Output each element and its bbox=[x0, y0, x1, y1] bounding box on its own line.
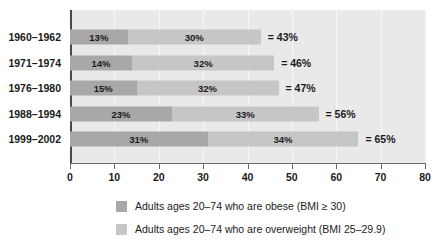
bar-segment-value-label: 15% bbox=[70, 81, 137, 96]
legend-item-overweight: Adults ages 20–74 who are overweight (BM… bbox=[116, 219, 385, 239]
stacked-bar: 15%32% bbox=[70, 81, 279, 96]
bar-segment-overweight: 32% bbox=[137, 81, 279, 96]
x-tick-mark bbox=[159, 163, 160, 169]
bar-segment-overweight: 33% bbox=[172, 106, 318, 121]
stacked-bar: 13%30% bbox=[70, 30, 261, 45]
x-tick-mark bbox=[425, 163, 426, 169]
category-label: 1999–2002 bbox=[8, 133, 61, 145]
x-tick-mark bbox=[114, 163, 115, 169]
category-label: 1988–1994 bbox=[8, 108, 61, 120]
category-label: 1960–1962 bbox=[8, 31, 61, 43]
x-tick-label: 80 bbox=[419, 171, 431, 183]
x-tick-mark bbox=[248, 163, 249, 169]
category-label: 1976–1980 bbox=[8, 82, 61, 94]
legend-label-obese: Adults ages 20–74 who are obese (BMI ≥ 3… bbox=[135, 200, 346, 212]
bar-segment-overweight: 34% bbox=[208, 132, 359, 147]
bar-segment-value-label: 32% bbox=[132, 55, 274, 70]
x-tick-mark bbox=[336, 163, 337, 169]
x-tick-mark bbox=[203, 163, 204, 169]
bar-total-label: = 47% bbox=[286, 82, 316, 94]
bar-segment-value-label: 14% bbox=[70, 55, 132, 70]
bar-segment-obese: 15% bbox=[70, 81, 137, 96]
bar-total-label: = 46% bbox=[281, 57, 311, 69]
x-tick-mark bbox=[381, 163, 382, 169]
x-tick-label: 70 bbox=[375, 171, 387, 183]
legend-swatch-obese-icon bbox=[116, 201, 127, 212]
bar-segment-overweight: 32% bbox=[132, 55, 274, 70]
bar-segment-obese: 23% bbox=[70, 106, 172, 121]
legend-label-overweight: Adults ages 20–74 who are overweight (BM… bbox=[135, 223, 385, 235]
bar-segment-obese: 14% bbox=[70, 55, 132, 70]
x-tick-label: 50 bbox=[286, 171, 298, 183]
x-tick-label: 60 bbox=[330, 171, 342, 183]
stacked-bar-chart: 01020304050607080 1960–196213%30%= 43%19… bbox=[0, 0, 443, 251]
x-tick-mark bbox=[70, 163, 71, 169]
bar-segment-value-label: 30% bbox=[128, 30, 261, 45]
stacked-bar: 23%33% bbox=[70, 106, 319, 121]
stacked-bar: 14%32% bbox=[70, 55, 274, 70]
x-tick-label: 0 bbox=[67, 171, 73, 183]
bar-segment-value-label: 31% bbox=[70, 132, 208, 147]
legend-item-obese: Adults ages 20–74 who are obese (BMI ≥ 3… bbox=[116, 196, 385, 216]
bar-total-label: = 43% bbox=[268, 31, 298, 43]
bar-segment-value-label: 23% bbox=[70, 106, 172, 121]
x-tick-mark bbox=[292, 163, 293, 169]
bar-segment-overweight: 30% bbox=[128, 30, 261, 45]
category-label: 1971–1974 bbox=[8, 57, 61, 69]
bar-total-label: = 65% bbox=[365, 133, 395, 145]
legend-swatch-overweight-icon bbox=[116, 224, 127, 235]
bar-segment-value-label: 33% bbox=[172, 106, 318, 121]
bar-segment-obese: 31% bbox=[70, 132, 208, 147]
x-tick-label: 10 bbox=[109, 171, 121, 183]
bar-total-label: = 56% bbox=[326, 108, 356, 120]
chart-legend: Adults ages 20–74 who are obese (BMI ≥ 3… bbox=[116, 196, 385, 242]
bar-segment-value-label: 32% bbox=[137, 81, 279, 96]
stacked-bar: 31%34% bbox=[70, 132, 358, 147]
x-tick-label: 30 bbox=[197, 171, 209, 183]
bar-segment-obese: 13% bbox=[70, 30, 128, 45]
bar-segment-value-label: 13% bbox=[70, 30, 128, 45]
bar-segment-value-label: 34% bbox=[208, 132, 359, 147]
x-tick-label: 40 bbox=[242, 171, 254, 183]
x-tick-label: 20 bbox=[153, 171, 165, 183]
gridline bbox=[425, 10, 426, 163]
